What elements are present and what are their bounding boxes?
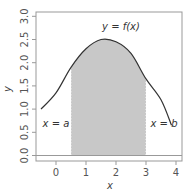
y-axis-label: y (2, 85, 13, 93)
y-tick-label: 2.5 (19, 32, 30, 48)
x-tick-label: 4 (173, 167, 179, 178)
y-tick-label: 1.5 (19, 78, 30, 94)
y-tick-label: 2.0 (19, 55, 30, 71)
x-axis-label: x (106, 180, 113, 191)
label-x-equals-a: x = a (42, 118, 70, 129)
chart-canvas: 01234 0.00.51.01.52.02.53.0 y = f(x) x =… (0, 0, 187, 193)
y-tick-label: 0.0 (19, 148, 30, 164)
y-tick-label: 1.0 (19, 101, 30, 117)
y-tick-label: 3.0 (19, 8, 30, 24)
x-tick-label: 3 (143, 167, 149, 178)
curve-label: y = f(x) (101, 21, 140, 32)
x-tick-label: 2 (113, 167, 119, 178)
y-axis-ticks: 0.00.51.01.52.02.53.0 (19, 8, 36, 163)
shaded-area (71, 39, 146, 155)
x-tick-label: 0 (53, 167, 59, 178)
x-axis-ticks: 01234 (53, 161, 179, 178)
y-tick-label: 0.5 (19, 124, 30, 140)
x-tick-label: 1 (83, 167, 89, 178)
label-x-equals-b: x = b (149, 118, 177, 129)
